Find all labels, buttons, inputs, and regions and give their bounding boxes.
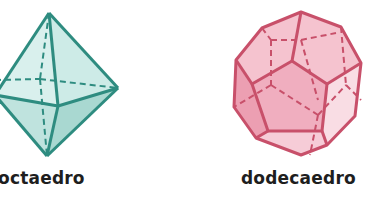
octahedron-label: octaedro — [0, 168, 85, 188]
dodecahedron-shape — [234, 12, 361, 155]
octahedron-shape — [0, 13, 118, 156]
dodecahedron-label: dodecaedro — [241, 168, 356, 188]
